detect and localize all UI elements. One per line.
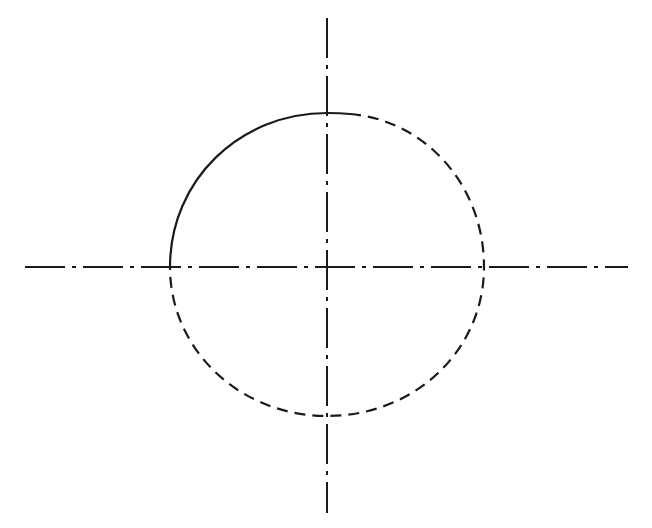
center-cross <box>319 259 335 275</box>
solid-arc <box>170 113 350 267</box>
technical-diagram <box>0 0 652 528</box>
